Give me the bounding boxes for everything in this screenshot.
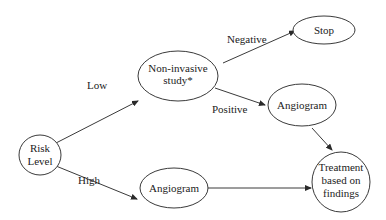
edge-angio-to-treatment [312,128,332,150]
node-angiogram-high: Angiogram [140,168,208,208]
node-study-line-1: Non-invasive [148,62,207,74]
node-stop: Stop [293,16,355,44]
node-treatment: Treatment based on findings [312,152,370,212]
edge-low [56,101,138,143]
flow-diagram: Low High Negative Positive Risk Level No… [0,0,386,220]
node-treatment-line-2: based on [322,174,361,186]
edge-label-low: Low [87,79,107,91]
node-risk-level-line-1: Risk [30,142,51,154]
node-risk-level: Risk Level [19,135,61,175]
node-treatment-line-1: Treatment [319,161,364,173]
node-angiogram-high-label: Angiogram [149,182,200,194]
node-stop-label: Stop [314,24,335,36]
node-treatment-line-3: findings [323,187,359,199]
node-study-line-2: study* [163,74,192,86]
edge-label-negative: Negative [227,33,267,45]
edge-label-high: High [78,174,101,186]
node-risk-level-line-2: Level [27,155,52,167]
edge-label-positive: Positive [212,103,248,115]
node-non-invasive-study: Non-invasive study* [138,51,218,101]
node-angiogram-positive: Angiogram [268,84,336,126]
node-angiogram-positive-label: Angiogram [277,99,328,111]
